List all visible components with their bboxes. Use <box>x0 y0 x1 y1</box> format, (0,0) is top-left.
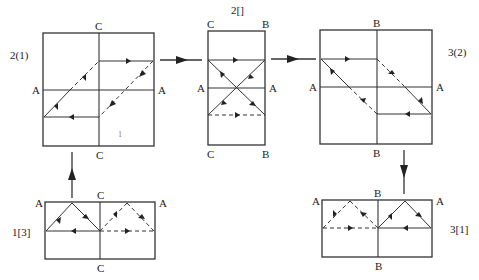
diagram-canvas: 2(1) C C A A 1 2[] C B C B A A <box>0 0 479 280</box>
edge-label-bottom-left: C <box>207 148 214 160</box>
arrowhead-icon <box>113 211 117 218</box>
edge-label-left: A <box>32 84 40 96</box>
edge-label-top-left: C <box>207 18 214 30</box>
edge-label-left: A <box>309 81 317 93</box>
arrowhead-icon <box>345 56 350 62</box>
path-segment <box>321 59 349 87</box>
path-segment <box>99 61 153 117</box>
edge-label-bottom: B <box>373 147 380 159</box>
edge-label-right: A <box>436 81 444 93</box>
path-segment <box>100 203 127 231</box>
path-segment <box>323 201 350 228</box>
edge-label-top: C <box>97 189 104 201</box>
edge-label-top: C <box>95 20 102 32</box>
edge-label-top-left: A <box>312 195 320 207</box>
stray-mark: 1 <box>118 130 122 139</box>
path-segment <box>46 203 72 231</box>
path-segment <box>405 87 431 114</box>
edge-label-bottom: C <box>96 149 103 161</box>
arrowhead-icon <box>69 114 74 120</box>
edge-label-right: A <box>269 82 277 94</box>
arrowhead-icon <box>233 57 238 63</box>
panel-3-1: 3[1] B B A A <box>312 187 468 272</box>
panel-3-1-title: 3[1] <box>450 223 468 235</box>
edge-label-top-right: A <box>436 195 444 207</box>
arrowhead-icon <box>82 74 86 81</box>
path-segment <box>44 90 70 117</box>
edge-label-top: B <box>374 187 381 199</box>
arrowhead-icon <box>403 225 408 231</box>
arrowhead-icon <box>235 112 240 118</box>
arrowhead-icon <box>71 228 76 234</box>
edge-label-top: B <box>373 17 380 29</box>
arrowhead-icon <box>348 225 353 231</box>
flow-arrow-1-3-to-2-1 <box>68 152 76 198</box>
panel-2-bracket: 2[] C B C B A A <box>197 4 277 160</box>
edge-label-top-right: A <box>159 197 167 209</box>
arrowhead-icon <box>221 100 227 105</box>
arrowhead-icon <box>405 111 410 117</box>
arrowhead-icon <box>248 74 254 79</box>
arrowhead-icon <box>388 213 392 220</box>
panel-3-2: 3(2) B B A A <box>309 17 467 159</box>
flow-arrow-2-1-to-2-bracket <box>160 56 202 64</box>
edge-label-top-left: A <box>35 197 43 209</box>
edge-label-bottom-right: B <box>262 148 269 160</box>
arrowhead-icon <box>330 68 335 75</box>
edge-label-right: A <box>158 84 166 96</box>
edge-label-top-right: B <box>262 18 269 30</box>
panel-1-3-title: 1[3] <box>12 226 30 238</box>
panel-1-3: 1[3] C C A A <box>12 189 167 274</box>
edge-label-bottom: C <box>97 262 104 274</box>
arrowhead-icon <box>220 71 225 78</box>
arrowhead-icon <box>249 101 256 106</box>
arrowhead-icon <box>138 214 145 219</box>
arrowhead-icon <box>109 100 116 107</box>
edge-label-left: A <box>197 82 205 94</box>
arrowhead-icon <box>125 228 130 234</box>
panel-2-1-title: 2(1) <box>10 49 29 62</box>
panel-2-bracket-title: 2[] <box>231 4 244 16</box>
panel-3-2-title: 3(2) <box>448 46 467 59</box>
edge-label-bottom: B <box>375 260 382 272</box>
flow-arrow-2-bracket-to-3-2 <box>271 55 316 63</box>
panel-2-1: 2(1) C C A A 1 <box>10 20 166 161</box>
flow-arrow-3-2-to-3-1 <box>400 150 408 194</box>
arrowhead-icon <box>139 70 146 77</box>
arrowhead-icon <box>126 58 131 64</box>
